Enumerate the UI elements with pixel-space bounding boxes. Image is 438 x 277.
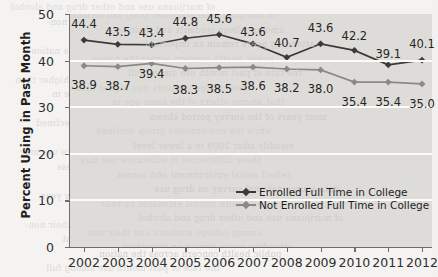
legend-item-enrolled[interactable]: Enrolled Full Time in College xyxy=(236,186,429,199)
bleed-text-line: steadily after 2009 to a lower level xyxy=(133,141,294,151)
legend-marker-icon xyxy=(236,186,256,198)
x-axis-line xyxy=(69,247,432,248)
x-tick-mark xyxy=(321,247,322,252)
x-tick-mark xyxy=(219,247,220,252)
y-tick-mark xyxy=(65,107,70,108)
bleed-text-line: these differences in substance use may xyxy=(80,155,261,165)
bleed-text-line: reflect social environment and access xyxy=(117,170,291,180)
data-label-not-enrolled: 38.7 xyxy=(105,79,131,93)
data-label-enrolled: 40.7 xyxy=(274,36,300,50)
x-tick-mark xyxy=(84,247,85,252)
data-label-not-enrolled: 38.2 xyxy=(274,81,300,95)
y-tick-mark xyxy=(65,247,70,248)
bleed-text-line: of marijuana use and other drug and alco… xyxy=(138,213,343,223)
data-label-not-enrolled: 35.0 xyxy=(409,97,435,111)
data-label-enrolled: 42.2 xyxy=(342,29,368,43)
data-label-enrolled: 45.6 xyxy=(206,12,232,26)
y-tick-mark xyxy=(65,14,70,15)
data-label-enrolled: 40.1 xyxy=(409,37,435,51)
y-tick-label: 10 xyxy=(38,193,54,208)
legend-label: Not Enrolled Full Time in College xyxy=(259,199,429,212)
x-tick-mark xyxy=(422,247,423,252)
y-tick-label: 50 xyxy=(38,7,54,22)
data-label-not-enrolled: 38.5 xyxy=(206,82,232,96)
x-tick-mark xyxy=(118,247,119,252)
data-label-enrolled: 43.5 xyxy=(105,25,131,39)
bleed-text-line: public health concern across the nation xyxy=(91,54,274,64)
x-tick-label: 2002 xyxy=(68,255,100,270)
x-tick-label: 2007 xyxy=(237,255,269,270)
data-label-enrolled: 43.6 xyxy=(308,21,334,35)
x-tick-mark xyxy=(287,247,288,252)
y-tick-mark xyxy=(65,154,70,155)
x-tick-label: 2012 xyxy=(406,255,438,270)
x-tick-label: 2009 xyxy=(305,255,337,270)
data-label-enrolled: 44.4 xyxy=(71,17,97,31)
chart-legend: Enrolled Full Time in CollegeNot Enrolle… xyxy=(236,186,429,211)
data-label-enrolled: 43.6 xyxy=(240,25,266,39)
x-tick-mark xyxy=(185,247,186,252)
bleed-text-line: while the non-enrolled group declined xyxy=(96,126,272,136)
gridline xyxy=(70,153,432,155)
x-tick-label: 2003 xyxy=(102,255,134,270)
x-tick-mark xyxy=(354,247,355,252)
data-label-not-enrolled: 38.9 xyxy=(71,78,97,92)
data-label-not-enrolled: 35.4 xyxy=(375,95,401,109)
legend-label: Enrolled Full Time in College xyxy=(259,186,408,199)
y-axis-title: Percent Using in Past Month xyxy=(19,15,33,235)
data-label-not-enrolled: 38.0 xyxy=(308,82,334,96)
x-tick-label: 2010 xyxy=(338,255,370,270)
x-tick-label: 2006 xyxy=(203,255,235,270)
data-label-enrolled: 39.1 xyxy=(375,47,401,61)
data-label-not-enrolled: 38.6 xyxy=(240,79,266,93)
x-tick-label: 2011 xyxy=(372,255,404,270)
legend-item-not-enrolled[interactable]: Not Enrolled Full Time in College xyxy=(236,199,429,212)
x-tick-mark xyxy=(388,247,389,252)
x-tick-mark xyxy=(152,247,153,252)
data-label-not-enrolled: 35.4 xyxy=(342,95,368,109)
x-tick-label: 2005 xyxy=(169,255,201,270)
data-label-enrolled: 43.4 xyxy=(139,26,165,40)
y-tick-label: 30 xyxy=(38,100,54,115)
data-label-not-enrolled: 38.3 xyxy=(173,83,199,97)
x-tick-label: 2008 xyxy=(271,255,303,270)
data-label-enrolled: 44.8 xyxy=(173,15,199,29)
data-label-not-enrolled: 39.4 xyxy=(139,67,165,81)
y-tick-mark xyxy=(65,61,70,62)
y-tick-label: 40 xyxy=(38,53,54,68)
y-tick-label: 20 xyxy=(38,146,54,161)
bleed-text-line: among college students and their non- xyxy=(85,228,262,238)
legend-marker-icon xyxy=(236,199,256,211)
bleed-text-line: most years of the survey period shown xyxy=(149,112,327,122)
y-tick-label: 0 xyxy=(46,240,54,255)
x-tick-label: 2004 xyxy=(136,255,168,270)
x-tick-mark xyxy=(253,247,254,252)
y-tick-mark xyxy=(65,200,70,201)
